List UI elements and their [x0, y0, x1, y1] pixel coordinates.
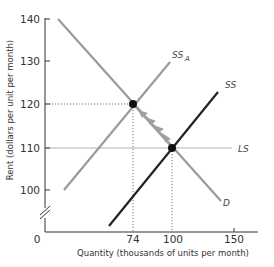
arrow-path: [133, 104, 170, 145]
rent-market-chart: 140 130 120 110 100 0 74 100 150 Quantit…: [0, 0, 274, 267]
y-axis-title: Rent (dollars per unit per month): [5, 40, 15, 180]
y-tick-120: 120: [20, 98, 40, 110]
y-ticks: [45, 19, 50, 190]
y-tick-110: 110: [20, 142, 40, 154]
y-tick-140: 140: [20, 13, 40, 25]
y-tick-100: 100: [20, 184, 40, 196]
x-tick-74: 74: [126, 233, 140, 245]
y-tick-130: 130: [20, 55, 40, 67]
label-ss-a: SSA: [172, 50, 190, 63]
label-ss: SS: [225, 80, 236, 90]
short-run-supply-curve: [109, 92, 218, 226]
label-d: D: [223, 198, 230, 208]
label-ls: LS: [238, 144, 249, 154]
x-tick-100: 100: [163, 233, 183, 245]
x-tick-0: 0: [34, 233, 41, 245]
x-axis-title: Quantity (thousands of units per month): [77, 248, 249, 258]
x-tick-150: 150: [224, 233, 244, 245]
equilibrium-point-initial: [129, 100, 137, 108]
equilibrium-point-longrun: [168, 144, 176, 152]
